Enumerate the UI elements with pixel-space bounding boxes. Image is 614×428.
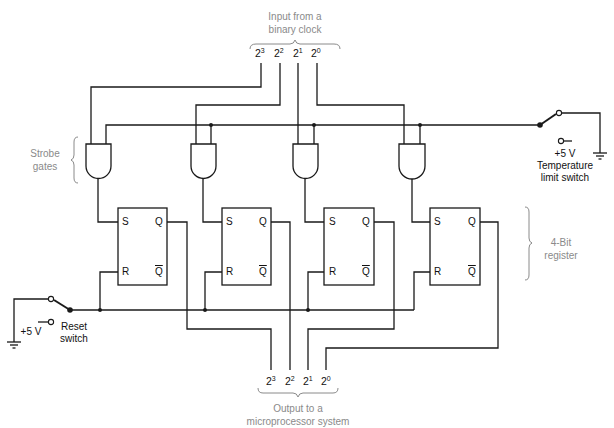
output-label-line-2: microprocessor system — [238, 415, 358, 428]
wire-output-2-2 — [271, 222, 290, 370]
register-label-line-1: 4-Bit — [536, 236, 586, 249]
input-label: Input from a binary clock — [255, 10, 335, 36]
ff3-r-pin: R — [329, 267, 336, 277]
reset-switch-label-line-2: switch — [56, 333, 92, 345]
temp-switch-label-line-1: Temperature — [530, 160, 600, 172]
temp-switch-label-line-2: limit switch — [530, 172, 600, 184]
strobe-label-line-1: Strobe — [22, 147, 68, 160]
wire-input-2-0 — [317, 63, 404, 144]
ff1-r-pin: R — [122, 267, 129, 277]
temp-switch-blade[interactable] — [540, 114, 556, 125]
and-gate-2 — [191, 144, 216, 178]
strobe-line — [106, 125, 540, 144]
output-bit-2-0: 20 — [321, 376, 331, 387]
input-bit-2-3: 23 — [255, 48, 265, 59]
temp-switch-ground-wire — [562, 113, 600, 153]
reset-switch-voltage: +5 V — [16, 326, 46, 338]
ff4-s-pin: S — [434, 217, 441, 227]
and-gate-4 — [399, 144, 425, 179]
input-label-line-2: binary clock — [255, 23, 335, 36]
strobe-label-line-2: gates — [22, 160, 68, 173]
ff3-q-pin: Q — [362, 217, 370, 227]
output-brace — [258, 388, 338, 397]
input-bit-2-1: 21 — [293, 48, 303, 59]
input-bit-2-0: 20 — [311, 48, 321, 59]
output-bit-2-1: 21 — [303, 376, 313, 387]
register-label: 4-Bit register — [536, 236, 586, 262]
ff2-r-pin: R — [226, 267, 233, 277]
ff3-qbar-pin: Q — [362, 267, 370, 277]
register-label-line-2: register — [536, 249, 586, 262]
input-bit-2-2: 22 — [274, 48, 284, 59]
strobe-brace — [71, 137, 78, 183]
ff1-q-pin: Q — [155, 217, 163, 227]
temperature-switch-label: +5 V Temperature limit switch — [530, 148, 600, 184]
strobe-gates-label: Strobe gates — [22, 147, 68, 173]
ff4-q-pin: Q — [468, 217, 476, 227]
output-bit-2-3: 23 — [266, 376, 276, 387]
temp-switch-voltage: +5 V — [530, 148, 600, 160]
ff2-q-pin: Q — [259, 217, 267, 227]
ff4-r-pin: R — [434, 267, 441, 277]
wire-input-2-3 — [91, 63, 261, 144]
ff4-qbar-pin: Q — [468, 267, 476, 277]
wire-input-2-2 — [196, 63, 280, 144]
reset-switch-label-line-1: Reset — [56, 321, 92, 333]
output-bit-2-2: 22 — [285, 376, 295, 387]
register-brace — [525, 207, 532, 280]
reset-voltage-label: +5 V — [16, 326, 46, 338]
ff1-s-pin: S — [122, 217, 129, 227]
output-label-line-1: Output to a — [238, 402, 358, 415]
reset-switch-blade[interactable] — [54, 300, 70, 310]
input-label-line-1: Input from a — [255, 10, 335, 23]
ff2-s-pin: S — [226, 217, 233, 227]
ff2-qbar-pin: Q — [259, 267, 267, 277]
and-gate-3 — [293, 144, 318, 179]
circuit-diagram — [0, 0, 614, 428]
ff1-qbar-pin: Q — [155, 267, 163, 277]
output-label: Output to a microprocessor system — [238, 402, 358, 428]
and-gate-1 — [86, 144, 111, 179]
ff3-s-pin: S — [329, 217, 336, 227]
reset-switch-label: Reset switch — [56, 321, 92, 345]
